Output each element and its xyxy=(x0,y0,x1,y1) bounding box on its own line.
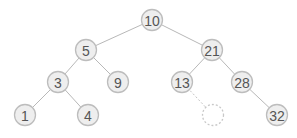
tree-node-1: 1 xyxy=(15,105,36,126)
node-label: 10 xyxy=(144,13,160,29)
tree-node-32: 32 xyxy=(267,105,288,126)
nodes: 10 5 21 3 9 13 28 1 xyxy=(15,10,288,126)
tree-diagram: 10 5 21 3 9 13 28 1 xyxy=(0,0,297,138)
node-label: 5 xyxy=(82,43,90,59)
tree-node-10: 10 xyxy=(142,10,163,31)
node-label: 28 xyxy=(234,75,250,91)
edges xyxy=(25,20,277,115)
node-label: 4 xyxy=(84,108,92,124)
node-label: 13 xyxy=(174,75,190,91)
node-label: 21 xyxy=(204,43,220,59)
tree-node-28: 28 xyxy=(232,72,253,93)
tree-node-9: 9 xyxy=(108,72,129,93)
tree-node-5: 5 xyxy=(76,40,97,61)
node-label: 32 xyxy=(269,108,285,124)
node-label: 3 xyxy=(54,75,62,91)
tree-node-4: 4 xyxy=(78,105,99,126)
tree-node-3: 3 xyxy=(48,72,69,93)
node-label: 1 xyxy=(21,108,29,124)
node-label: 9 xyxy=(114,75,122,91)
tree-node-13: 13 xyxy=(172,72,193,93)
tree-node-21: 21 xyxy=(202,40,223,61)
placeholder-node xyxy=(203,105,224,126)
